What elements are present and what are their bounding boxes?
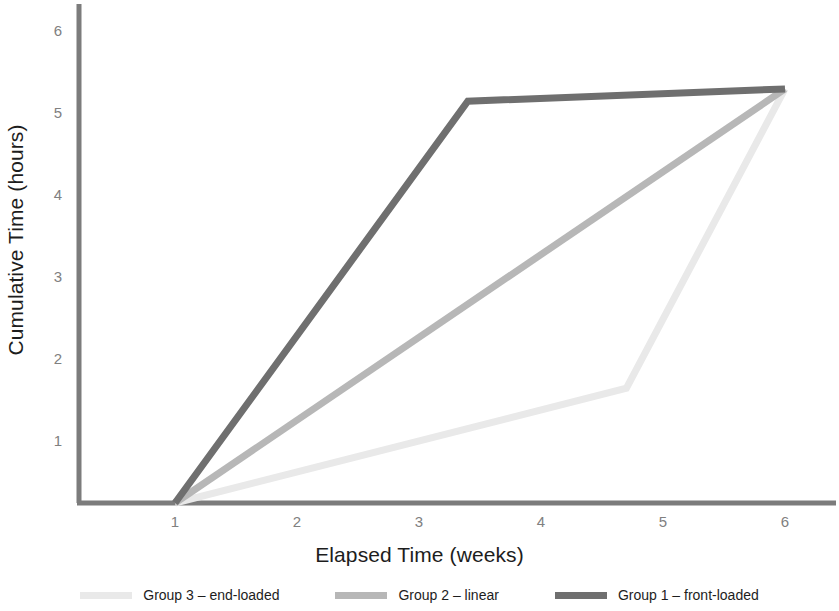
- x-tick-label-4: 4: [521, 514, 561, 529]
- y-tick-label-1: 1: [36, 433, 62, 448]
- x-tick-label-2: 2: [277, 514, 317, 529]
- y-tick-label-4: 4: [36, 187, 62, 202]
- y-tick-label-6: 6: [36, 23, 62, 38]
- legend-item-group-1[interactable]: Group 1 – front-loaded: [555, 588, 759, 602]
- x-tick-label-3: 3: [399, 514, 439, 529]
- x-tick-label-6: 6: [765, 514, 805, 529]
- y-axis-title: Cumulative Time (hours): [4, 0, 28, 480]
- x-axis-title: Elapsed Time (weeks): [0, 543, 839, 567]
- x-tick-label-1: 1: [155, 514, 195, 529]
- x-tick-label-5: 5: [643, 514, 683, 529]
- legend-swatch-icon-group-2: [335, 592, 387, 599]
- legend-label-group-2: Group 2 – linear: [398, 588, 498, 602]
- legend-label-group-3: Group 3 – end-loaded: [143, 588, 279, 602]
- series-line-group-2: [175, 89, 785, 503]
- series-polylines: [175, 89, 785, 503]
- legend-swatch-icon-group-3: [80, 592, 132, 599]
- y-tick-label-5: 5: [36, 105, 62, 120]
- legend-label-group-1: Group 1 – front-loaded: [618, 588, 759, 602]
- y-tick-label-3: 3: [36, 269, 62, 284]
- legend-item-group-3[interactable]: Group 3 – end-loaded: [80, 588, 279, 602]
- legend-swatch-icon-group-1: [555, 592, 607, 599]
- chart-legend: Group 3 – end-loaded Group 2 – linear Gr…: [0, 588, 839, 602]
- legend-item-group-2[interactable]: Group 2 – linear: [335, 588, 498, 602]
- chart-figure: 6 5 4 3 2 1 1 2 3 4 5 6 Cumulative Time …: [0, 0, 839, 611]
- y-tick-label-2: 2: [36, 351, 62, 366]
